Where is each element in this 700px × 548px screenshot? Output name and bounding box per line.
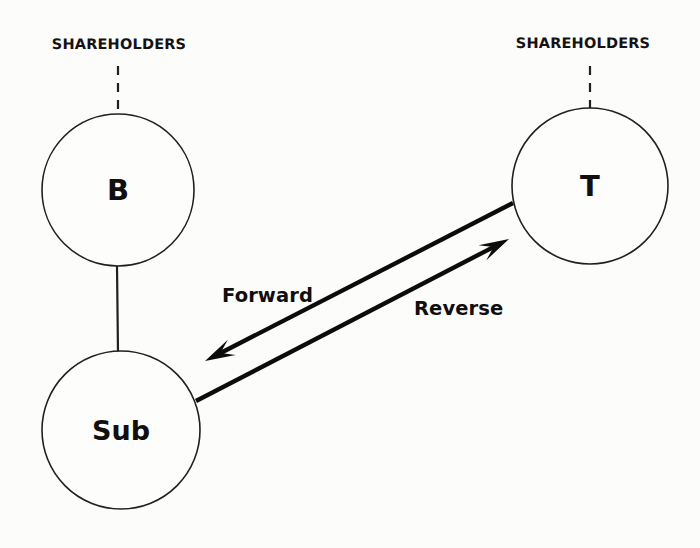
- diagram-canvas: B T Sub: [0, 0, 700, 548]
- solid-connector-b-sub: [117, 266, 118, 353]
- forward-arrow-group: [205, 203, 513, 361]
- forward-arrow-shaft: [220, 203, 513, 353]
- forward-arrow-head: [205, 340, 236, 361]
- node-label-b: B: [107, 173, 129, 207]
- shareholders-label-t: SHAREHOLDERS: [516, 36, 651, 52]
- reverse-arrow-head: [479, 239, 510, 260]
- reverse-arrow-group: [196, 239, 509, 401]
- reverse-arrow-label: Reverse: [414, 297, 503, 320]
- forward-arrow-label: Forward: [222, 284, 313, 307]
- node-label-sub: Sub: [92, 415, 150, 446]
- merger-diagram: B T Sub SHAREHOLDERS SHAREHOLDERS Forwar…: [0, 0, 700, 548]
- shareholders-label-b: SHAREHOLDERS: [52, 37, 187, 53]
- node-label-t: T: [580, 169, 600, 203]
- reverse-arrow-shaft: [196, 247, 494, 401]
